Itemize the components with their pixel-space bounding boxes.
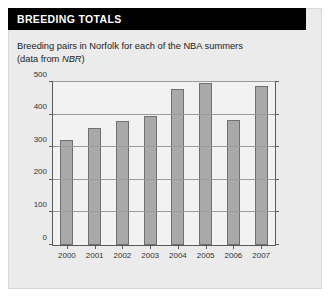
y-axis-label: 500 <box>34 69 47 78</box>
x-axis-label: 2004 <box>169 251 187 260</box>
x-axis-tick <box>261 245 262 249</box>
y-gridline <box>53 179 275 180</box>
y-axis-tick-left <box>49 211 53 212</box>
y-axis-tick-right <box>275 81 279 82</box>
y-axis-tick-left <box>49 179 53 180</box>
subtitle-line-2-suffix: ) <box>82 54 85 64</box>
breeding-pairs-bar-chart: 20002001200220032004200520062007 0100200… <box>8 76 306 272</box>
bar[interactable] <box>255 86 268 245</box>
subtitle-source-italic: NBR <box>62 54 82 64</box>
bar[interactable] <box>199 83 212 245</box>
bar-slot: 2002 <box>109 82 137 245</box>
bar-group: 20002001200220032004200520062007 <box>53 82 275 245</box>
y-axis-tick-right <box>275 179 279 180</box>
y-gridline <box>53 211 275 212</box>
x-axis-label: 2000 <box>58 251 76 260</box>
page-title: BREEDING TOTALS <box>17 13 122 25</box>
subtitle-line-1: Breeding pairs in Norfolk for each of th… <box>17 41 243 51</box>
y-axis-label: 0 <box>43 232 47 241</box>
x-axis-tick <box>150 245 151 249</box>
y-gridline <box>53 114 275 115</box>
bar[interactable] <box>60 140 73 245</box>
y-axis-tick-right <box>275 211 279 212</box>
bar-slot: 2000 <box>53 82 81 245</box>
bar[interactable] <box>116 121 129 245</box>
panel-subtitle: Breeding pairs in Norfolk for each of th… <box>17 40 295 65</box>
bar-slot: 2007 <box>247 82 275 245</box>
bar-slot: 2006 <box>220 82 248 245</box>
y-axis-tick-right <box>275 244 279 245</box>
panel-title-bar: BREEDING TOTALS <box>8 8 306 30</box>
y-axis-tick-left <box>49 244 53 245</box>
y-axis-tick-right <box>275 146 279 147</box>
x-axis-tick <box>95 245 96 249</box>
bar-slot: 2001 <box>81 82 109 245</box>
bar[interactable] <box>171 89 184 245</box>
plot-area: 20002001200220032004200520062007 0100200… <box>52 82 276 246</box>
y-axis-label: 100 <box>34 199 47 208</box>
y-gridline <box>53 146 275 147</box>
y-axis-label: 400 <box>34 102 47 111</box>
x-axis-tick <box>122 245 123 249</box>
y-axis-tick-right <box>275 114 279 115</box>
y-axis-label: 300 <box>34 134 47 143</box>
x-axis-tick <box>67 245 68 249</box>
x-axis-label: 2002 <box>113 251 131 260</box>
x-axis-label: 2003 <box>141 251 159 260</box>
x-axis-label: 2005 <box>197 251 215 260</box>
subtitle-line-2-prefix: (data from <box>17 54 62 64</box>
bar-slot: 2003 <box>136 82 164 245</box>
bar[interactable] <box>144 116 157 245</box>
y-axis-tick-left <box>49 146 53 147</box>
x-axis-tick <box>178 245 179 249</box>
y-axis-tick-left <box>49 81 53 82</box>
x-axis-label: 2006 <box>224 251 242 260</box>
bar-slot: 2005 <box>192 82 220 245</box>
x-axis-label: 2007 <box>252 251 270 260</box>
x-axis-tick <box>206 245 207 249</box>
bar-slot: 2004 <box>164 82 192 245</box>
x-axis-label: 2001 <box>86 251 104 260</box>
y-axis-tick-left <box>49 114 53 115</box>
y-gridline <box>53 81 275 82</box>
bar[interactable] <box>227 120 240 245</box>
x-axis-tick <box>233 245 234 249</box>
y-axis-label: 200 <box>34 167 47 176</box>
